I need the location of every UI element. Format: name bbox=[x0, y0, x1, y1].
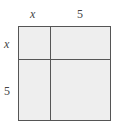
side-label-5: 5 bbox=[4, 85, 10, 97]
top-label-x: x bbox=[30, 8, 35, 20]
vertical-divider bbox=[50, 27, 51, 120]
horizontal-divider bbox=[19, 59, 110, 60]
side-label-x: x bbox=[4, 38, 9, 50]
area-model-square bbox=[18, 26, 111, 121]
top-label-5: 5 bbox=[77, 8, 83, 20]
